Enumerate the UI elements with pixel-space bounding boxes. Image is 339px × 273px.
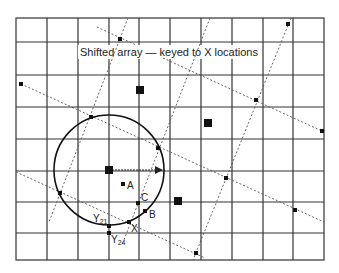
label-y24-sub: 24 <box>118 239 126 246</box>
large-square <box>136 86 144 94</box>
large-square <box>174 197 182 205</box>
dotted-line-se-upper <box>163 58 324 132</box>
point-c <box>136 201 140 205</box>
diagram-title: Shifted array — keyed to X locations <box>80 46 258 58</box>
label-c: C <box>141 192 148 203</box>
label-a: A <box>127 180 134 191</box>
point-a <box>121 182 125 186</box>
large-square-center <box>105 166 113 174</box>
label-y21: Y21 <box>93 213 108 225</box>
label-b: B <box>149 209 156 220</box>
label-x: X <box>131 223 138 234</box>
point-y21 <box>107 224 111 228</box>
large-square <box>204 119 212 127</box>
point-b <box>143 209 147 213</box>
label-y21-sub: 21 <box>100 218 108 225</box>
dotted-line-se-lower <box>16 172 205 258</box>
dotted-line-se-middle <box>21 84 324 222</box>
shifted-array-diagram: Shifted array — keyed to X locations <box>0 0 339 273</box>
arrowhead-icon <box>155 166 163 174</box>
label-y24: Y24 <box>111 234 126 246</box>
